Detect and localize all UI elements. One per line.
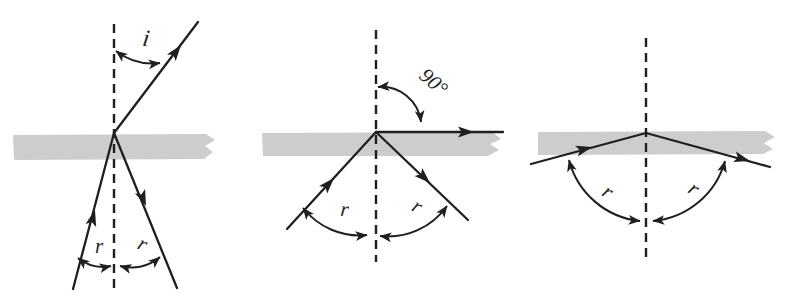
incident-angle-arc: [303, 208, 367, 235]
angle-label-r-reflected: r: [134, 231, 152, 257]
angle-label-90-degrees: 90°: [415, 63, 453, 101]
angle-label-r-reflected: r: [684, 176, 705, 201]
ray-diagram-figure: i r r 90° r r: [0, 0, 793, 296]
angle-label-r-incident: r: [598, 179, 619, 204]
ray-diagram-svg: i r r 90° r r: [0, 0, 793, 296]
angle-label-r-incident: r: [95, 234, 104, 258]
refracted-ray: [114, 22, 198, 133]
incident-angle-arc: [78, 258, 111, 267]
ninety-degree-angle-arc: [378, 87, 421, 122]
panel-total-internal-reflection: r r: [531, 38, 775, 258]
panel-refraction-partial-reflection: i r r: [13, 22, 215, 289]
panel-critical-angle: 90° r r: [262, 30, 503, 262]
angle-label-i: i: [141, 25, 151, 52]
reflected-angle-arc: [120, 257, 160, 268]
surface-band: [262, 132, 501, 156]
angle-label-r-incident: r: [339, 197, 350, 222]
angle-label-r-reflected: r: [408, 193, 428, 218]
refraction-angle-arc: [116, 51, 160, 63]
